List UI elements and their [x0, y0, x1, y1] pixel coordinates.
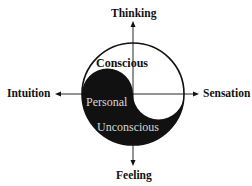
arrow-up-icon [131, 21, 136, 27]
sensation-label: Sensation [203, 88, 250, 100]
unconscious-label: Unconscious [97, 121, 159, 133]
personal-label: Personal [86, 96, 127, 108]
arrow-down-icon [131, 160, 136, 166]
arrow-left-icon [55, 92, 61, 97]
conscious-label: Conscious [96, 57, 148, 69]
thinking-label: Thinking [111, 8, 156, 20]
arrow-right-icon [193, 92, 199, 97]
feeling-label: Feeling [116, 170, 152, 182]
intuition-label: Intuition [7, 88, 50, 100]
